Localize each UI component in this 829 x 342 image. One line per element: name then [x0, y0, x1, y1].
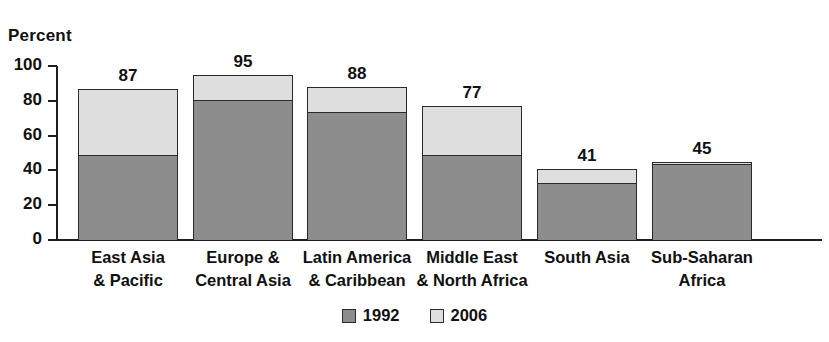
- bar-segment-1992[interactable]: [537, 184, 637, 240]
- legend: 1992 2006: [0, 306, 829, 325]
- bar-segment-2006[interactable]: [193, 75, 293, 101]
- y-axis-title: Percent: [8, 26, 72, 46]
- x-axis-label-line2: & North Africa: [404, 269, 540, 292]
- bar-value-label: 88: [307, 64, 407, 84]
- legend-item-2006[interactable]: 2006: [430, 306, 488, 325]
- x-axis-label-line2: Africa: [634, 269, 770, 292]
- legend-label-1992: 1992: [363, 306, 400, 325]
- bar-stack[interactable]: [193, 75, 293, 240]
- bar-segment-2006[interactable]: [307, 87, 407, 113]
- bar-segment-1992[interactable]: [422, 156, 522, 240]
- bar-segment-1992[interactable]: [193, 101, 293, 240]
- bar-value-label: 41: [537, 146, 637, 166]
- y-tick-label-20: 20: [0, 194, 42, 214]
- y-tick-label-40: 40: [0, 159, 42, 179]
- bar-segment-1992[interactable]: [307, 113, 407, 240]
- bar-segment-1992[interactable]: [78, 156, 178, 240]
- y-tick-label-0: 0: [0, 229, 42, 249]
- legend-swatch-1992: [342, 309, 356, 323]
- stacked-bar-chart: Percent 100806040200 879588774145 East A…: [0, 0, 829, 342]
- legend-swatch-2006: [430, 309, 444, 323]
- bar-value-label: 77: [422, 83, 522, 103]
- y-tick-label-80: 80: [0, 90, 42, 110]
- x-axis-label: Sub-SaharanAfrica: [634, 246, 770, 292]
- bar-stack[interactable]: [422, 106, 522, 240]
- bar-value-label: 87: [78, 66, 178, 86]
- legend-item-1992[interactable]: 1992: [342, 306, 400, 325]
- plot-area: 879588774145: [56, 66, 822, 240]
- bar-stack[interactable]: [307, 87, 407, 240]
- bar-segment-2006[interactable]: [537, 169, 637, 185]
- bar-stack[interactable]: [652, 162, 752, 240]
- y-tick-label-100: 100: [0, 55, 42, 75]
- bar-value-label: 95: [193, 52, 293, 72]
- bar-segment-1992[interactable]: [652, 165, 752, 240]
- legend-label-2006: 2006: [451, 306, 488, 325]
- bar-stack[interactable]: [78, 89, 178, 240]
- bar-segment-2006[interactable]: [422, 106, 522, 156]
- x-axis-label-line1: Sub-Saharan: [634, 246, 770, 269]
- bar-stack[interactable]: [537, 169, 637, 240]
- bar-segment-2006[interactable]: [78, 89, 178, 157]
- bar-value-label: 45: [652, 139, 752, 159]
- y-tick-label-60: 60: [0, 125, 42, 145]
